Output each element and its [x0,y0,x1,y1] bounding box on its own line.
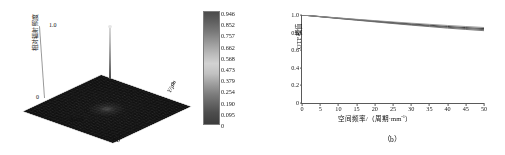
surface-mesh-wrap [26,48,201,128]
colorbar-tick-label: 0.473 [221,67,235,73]
otf-x-tick-label: 15 [354,106,360,112]
panel-a-3d-surface: 1.0 0 相对辐射照度 0 X/µm 0 Y/µm 0.9460.8520.7… [0,0,253,155]
otf-x-tick-label: 40 [445,106,451,112]
otf-x-tick-label: 30 [408,106,414,112]
otf-plot-area [302,15,484,103]
otf-y-tick-label: 0.4 [291,65,299,71]
caption-panel-a: （a） [108,136,125,144]
x-axis-label: X/µm [70,116,83,122]
colorbar-tick-labels: 0.9460.8520.7570.6620.5680.4730.3790.254… [221,7,251,127]
colorbar-tick-label: 0.190 [221,101,235,107]
otf-y-tick-mark [300,85,303,86]
otf-x-tick-mark [447,103,448,106]
colorbar-gradient [203,11,220,125]
otf-x-tick-label: 45 [463,106,469,112]
otf-x-tick-mark [429,103,430,106]
otf-x-tick-mark [465,103,466,106]
psf-surface-plot: 1.0 0 相对辐射照度 0 X/µm 0 Y/µm [8,8,194,126]
otf-plot-frame: 1.00.80.60.40.2005101520253035404550 [301,15,484,104]
colorbar-tick-label: 0.757 [221,33,235,39]
colorbar-tick-label: 0.568 [221,56,235,62]
otf-x-tick-mark [393,103,394,106]
otf-x-axis-label: 空间频率/（周期·mm-1） [338,113,412,123]
x-axis-tick-zero: 0 [84,108,87,114]
colorbar-tick-label: 0.662 [221,45,235,51]
otf-x-tick-label: 50 [481,106,487,112]
otf-curves-svg [302,15,484,103]
otf-x-tick-mark [320,103,321,106]
otf-x-tick-mark [484,103,485,106]
otf-x-tick-label: 35 [426,106,432,112]
psf-peak-marker [108,25,112,28]
colorbar-tick-label: 0.852 [221,22,235,28]
surface-grain-texture [24,75,190,143]
otf-x-tick-mark [356,103,357,106]
otf-x-tick-label: 20 [372,106,378,112]
otf-x-tick-mark [338,103,339,106]
surface-mesh [24,75,190,143]
colorbar-tick-label: 0 [221,123,224,129]
otf-y-axis-label: OTF模值 [294,9,303,65]
panel-b-otf-chart: 1.00.80.60.40.2005101520253035404550 OTF… [253,0,505,155]
otf-x-axis-label-suffix: ） [405,115,412,122]
figure-container: 1.0 0 相对辐射照度 0 X/µm 0 Y/µm 0.9460.8520.7… [0,0,505,155]
otf-x-tick-label: 25 [390,106,396,112]
psf-peak-spike [109,27,111,79]
otf-x-tick-label: 0 [300,106,303,112]
otf-y-tick-mark [300,67,303,68]
colorbar-tick-label: 0.095 [221,112,235,118]
colorbar-tick-label: 0.379 [221,78,235,84]
otf-x-tick-label: 5 [319,106,322,112]
otf-x-axis-label-prefix: 空间频率/（周期·mm [338,115,401,122]
otf-x-tick-mark [302,103,303,106]
colorbar-tick-label: 0.254 [221,89,235,95]
z-axis-tick-top: 1.0 [49,22,57,28]
otf-y-tick-label: 0.2 [291,82,299,88]
otf-curve [302,15,484,28]
otf-x-tick-mark [374,103,375,106]
otf-x-tick-label: 10 [335,106,341,112]
otf-x-tick-mark [411,103,412,106]
colorbar-tick-label: 0.946 [221,11,235,17]
caption-panel-b: （b） [383,136,401,144]
